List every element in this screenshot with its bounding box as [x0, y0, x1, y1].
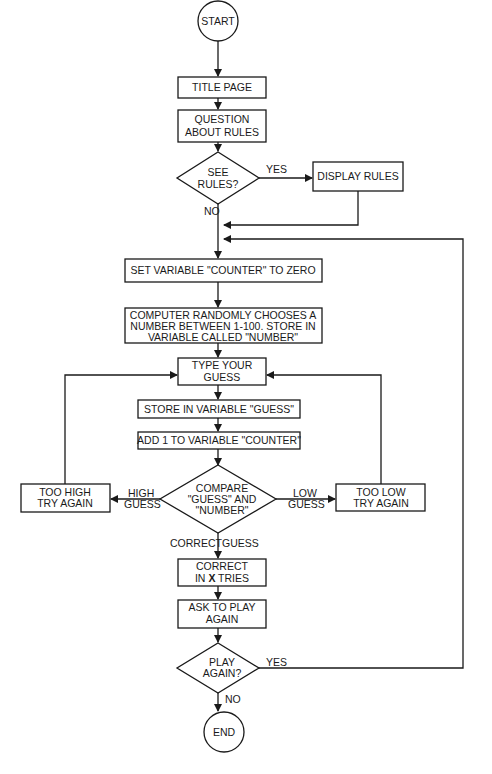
- title-page-label: TITLE PAGE: [192, 81, 252, 93]
- correct-tries-variable: X: [208, 572, 215, 584]
- correct-guess-label-left: CORRECT: [170, 537, 223, 549]
- correct-line-2-pre: IN: [195, 572, 208, 584]
- play-again-line-2: AGAIN?: [203, 667, 242, 679]
- node-title-page: TITLE PAGE: [178, 77, 266, 98]
- start-label: START: [201, 15, 235, 27]
- play-again-no-label: NO: [225, 693, 241, 705]
- low-guess-label-2: GUESS: [288, 498, 325, 510]
- correct-guess-label-right: GUESS: [222, 537, 259, 549]
- see-rules-no-label: NO: [204, 205, 220, 217]
- question-line-2: ABOUT RULES: [185, 126, 259, 138]
- node-correct: CORRECT IN X TRIES: [178, 559, 266, 586]
- edge-displayrules-return: [224, 191, 358, 225]
- node-end: END: [204, 712, 244, 752]
- add-counter-label: ADD 1 TO VARIABLE "COUNTER": [137, 434, 301, 446]
- node-type-guess: TYPE YOUR GUESS: [178, 358, 266, 385]
- correct-line-2: IN X TRIES: [195, 572, 249, 584]
- high-guess-label-2: GUESS: [124, 498, 161, 510]
- ask-play-line-1: ASK TO PLAY: [188, 601, 255, 613]
- type-guess-line-2: GUESS: [204, 371, 241, 383]
- question-line-1: QUESTION: [195, 113, 250, 125]
- too-high-line-2: TRY AGAIN: [37, 497, 93, 509]
- node-set-counter: SET VARIABLE "COUNTER" TO ZERO: [125, 259, 322, 282]
- node-question-about-rules: QUESTION ABOUT RULES: [178, 110, 266, 142]
- node-see-rules-decision: SEE RULES?: [177, 152, 259, 204]
- node-store-guess: STORE IN VARIABLE "GUESS": [138, 400, 300, 418]
- edge-toolow-return: [267, 375, 381, 484]
- edge-toohigh-return: [65, 375, 177, 484]
- compare-line-3: "NUMBER": [196, 504, 249, 516]
- correct-line-2-post: TRIES: [215, 572, 249, 584]
- end-label: END: [213, 726, 236, 738]
- set-counter-label: SET VARIABLE "COUNTER" TO ZERO: [130, 264, 315, 276]
- play-again-yes-label: YES: [266, 656, 287, 668]
- node-ask-play-again: ASK TO PLAY AGAIN: [178, 600, 266, 628]
- random-number-line-3: VARIABLE CALLED "NUMBER": [148, 331, 298, 343]
- node-start: START: [198, 1, 238, 41]
- node-too-low: TOO LOW TRY AGAIN: [336, 484, 425, 511]
- see-rules-line-2: RULES?: [198, 178, 239, 190]
- node-random-number: COMPUTER RANDOMLY CHOOSES A NUMBER BETWE…: [125, 308, 322, 343]
- store-guess-label: STORE IN VARIABLE "GUESS": [144, 403, 294, 415]
- correct-line-1: CORRECT: [196, 560, 249, 572]
- node-add-counter: ADD 1 TO VARIABLE "COUNTER": [137, 432, 301, 449]
- flowchart-canvas: START TITLE PAGE QUESTION ABOUT RULES SE…: [0, 0, 492, 774]
- display-rules-label: DISPLAY RULES: [317, 170, 398, 182]
- node-too-high: TOO HIGH TRY AGAIN: [21, 484, 110, 512]
- node-compare-decision: COMPARE "GUESS" AND "NUMBER": [160, 465, 276, 533]
- type-guess-line-1: TYPE YOUR: [192, 359, 253, 371]
- too-low-line-2: TRY AGAIN: [353, 497, 409, 509]
- node-display-rules: DISPLAY RULES: [313, 162, 403, 191]
- see-rules-yes-label: YES: [266, 163, 287, 175]
- ask-play-line-2: AGAIN: [206, 613, 239, 625]
- node-play-again-decision: PLAY AGAIN?: [177, 643, 259, 693]
- see-rules-line-1: SEE: [207, 166, 228, 178]
